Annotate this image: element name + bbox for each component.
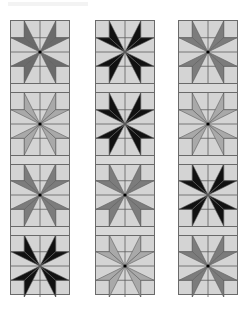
- sashing-strip: [11, 83, 69, 93]
- sashing-strip: [11, 226, 69, 236]
- star-block-mid: [96, 164, 154, 226]
- star-block-light: [11, 93, 69, 155]
- sashing-strip: [96, 226, 154, 236]
- star-block-mid: [179, 235, 237, 297]
- sashing-strip: [11, 155, 69, 165]
- sashing-strip: [96, 83, 154, 93]
- sashing-strip: [179, 155, 237, 165]
- star-block-black: [96, 21, 154, 83]
- sashing-strip: [96, 155, 154, 165]
- faint-caption: [8, 2, 88, 6]
- sashing-strip: [179, 226, 237, 236]
- star-block-mid: [11, 164, 69, 226]
- star-block-light: [179, 93, 237, 155]
- sashing-strip: [179, 83, 237, 93]
- star-block-light: [96, 235, 154, 297]
- column-1: [10, 20, 70, 295]
- column-3: [178, 20, 238, 295]
- star-block-black: [11, 235, 69, 297]
- star-block-dark: [11, 21, 69, 83]
- star-block-black: [96, 93, 154, 155]
- column-2: [95, 20, 155, 295]
- star-block-mid: [179, 21, 237, 83]
- star-block-black: [179, 164, 237, 226]
